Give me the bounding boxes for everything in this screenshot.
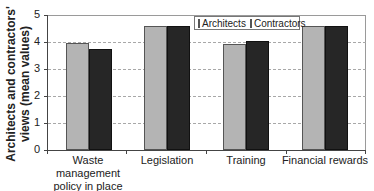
x-axis: [44, 150, 366, 151]
legend-swatch-contractors: [250, 19, 252, 28]
category-label-line: Financial rewards: [275, 154, 374, 167]
category-label: Financial rewards: [275, 154, 374, 167]
bar-architects-2: [223, 44, 246, 150]
bar-contractors-3: [325, 26, 348, 150]
legend-label-architects: Architects: [202, 18, 246, 29]
y-tick: [44, 42, 48, 43]
y-axis-title: Architects and contractors' views (mean …: [4, 4, 32, 164]
legend-swatch-architects: [198, 19, 200, 28]
y-axis-title-line-2: views (mean values): [18, 4, 32, 164]
category-label-line: management: [38, 167, 138, 180]
y-tick: [44, 69, 48, 70]
bar-architects-0: [66, 43, 89, 150]
bar-architects-3: [302, 26, 325, 150]
legend: Architects Contractors: [194, 16, 300, 30]
y-tick: [44, 96, 48, 97]
y-axis-title-line-1: Architects and contractors': [4, 4, 18, 164]
bar-contractors-0: [89, 49, 112, 150]
y-tick: [44, 123, 48, 124]
bar-architects-1: [144, 26, 167, 150]
legend-label-contractors: Contractors: [254, 18, 306, 29]
y-axis: [47, 15, 48, 151]
bar-contractors-2: [246, 41, 269, 150]
bar-contractors-1: [167, 26, 190, 150]
y-tick: [44, 15, 48, 16]
category-label-line: policy in place: [38, 180, 138, 191]
